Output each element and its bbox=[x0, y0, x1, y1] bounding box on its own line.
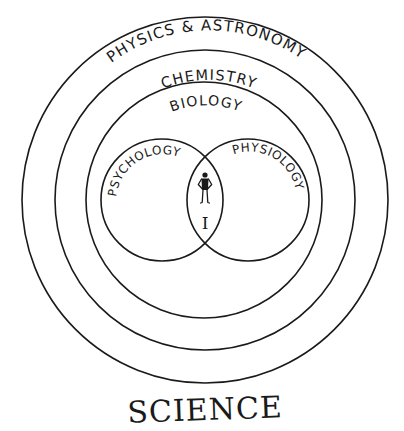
ring-label-biology-text: BIOLOGY bbox=[168, 92, 245, 114]
venn-label-psychology-text: PSYCHOLOGY bbox=[105, 143, 182, 198]
ring-label-chemistry-text: CHEMISTRY bbox=[159, 67, 259, 92]
science-diagram: PHYSICS & ASTRONOMY CHEMISTRY BIOLOGY PS… bbox=[0, 0, 404, 431]
venn-label-physiology: PHYSIOLOGY bbox=[231, 140, 307, 191]
ring-label-physics-astronomy: PHYSICS & ASTRONOMY bbox=[103, 16, 310, 66]
person-figure-icon bbox=[198, 172, 211, 203]
ring-label-physics-astronomy-text: PHYSICS & ASTRONOMY bbox=[103, 16, 310, 66]
ring-label-chemistry: CHEMISTRY bbox=[159, 67, 259, 92]
ring-label-biology: BIOLOGY bbox=[168, 92, 245, 114]
self-label: I bbox=[202, 213, 209, 233]
circle-physiology bbox=[187, 139, 309, 261]
venn-label-psychology: PSYCHOLOGY bbox=[105, 143, 182, 198]
diagram-title: SCIENCE bbox=[127, 389, 283, 429]
ring-biology bbox=[86, 82, 322, 318]
venn-label-physiology-text: PHYSIOLOGY bbox=[231, 140, 307, 191]
